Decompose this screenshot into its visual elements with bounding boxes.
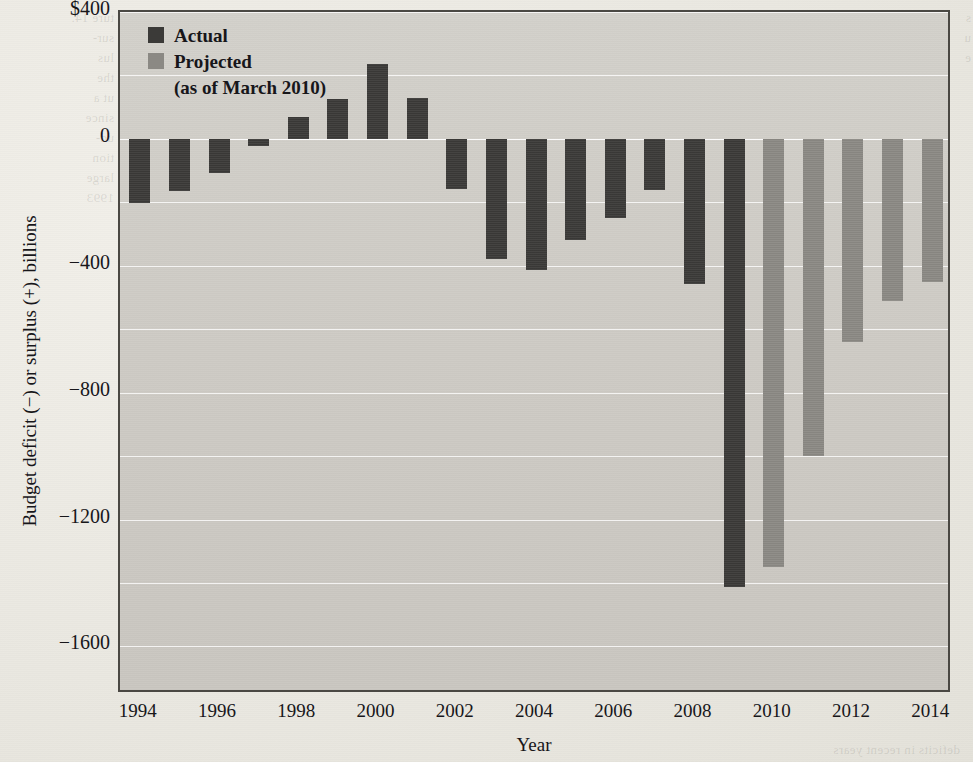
legend-label-projected: Projected xyxy=(174,50,252,73)
bar-2008 xyxy=(684,139,705,285)
bar-2003 xyxy=(486,139,507,259)
legend-swatch-actual-icon xyxy=(148,27,164,43)
y-axis-tick-labels: $4000−400−800−1200−1600 xyxy=(0,0,118,762)
bar-2012 xyxy=(842,139,863,342)
legend-swatch-projected-icon xyxy=(148,53,164,69)
x-tick-label: 1996 xyxy=(198,700,236,722)
x-tick-label: 2012 xyxy=(832,700,870,722)
bar-2005 xyxy=(565,139,586,240)
x-tick-label: 2008 xyxy=(673,700,711,722)
bar-2001 xyxy=(407,98,428,139)
bar-1995 xyxy=(169,139,190,191)
bleedthrough-text-right: s u e xyxy=(951,8,971,68)
x-tick-label: 2014 xyxy=(911,700,949,722)
x-tick-label: 1998 xyxy=(277,700,315,722)
bar-2006 xyxy=(605,139,626,218)
legend-label-actual: Actual xyxy=(174,24,228,47)
bar-2004 xyxy=(526,139,547,270)
bar-series-container xyxy=(120,12,948,690)
x-axis-tick-labels: 1994199619982000200220042006200820102012… xyxy=(118,700,950,730)
legend-label-projected-note: (as of March 2010) xyxy=(174,76,326,99)
bar-1997 xyxy=(248,139,269,146)
x-tick-label: 1994 xyxy=(119,700,157,722)
bar-2009 xyxy=(724,139,745,587)
legend-item-actual: Actual xyxy=(148,24,326,47)
x-tick-label: 2000 xyxy=(357,700,395,722)
bar-2002 xyxy=(446,139,467,189)
bar-2013 xyxy=(882,139,903,301)
bar-2014 xyxy=(922,139,943,282)
x-axis-title: Year xyxy=(118,734,950,756)
bar-2011 xyxy=(803,139,824,456)
bar-1996 xyxy=(209,139,230,173)
y-axis-title: Budget deficit (−) or surplus (+), billi… xyxy=(19,131,41,611)
bar-2000 xyxy=(367,64,388,139)
x-tick-label: 2010 xyxy=(753,700,791,722)
plot-area: Actual Projected (as of March 2010) xyxy=(118,10,950,692)
scanned-page: ture 14. sur- lus the ut a since ud- tio… xyxy=(0,0,973,762)
legend-item-projected: Projected xyxy=(148,50,326,73)
y-tick-label: −1600 xyxy=(6,631,118,654)
bar-1994 xyxy=(129,139,150,203)
bar-1998 xyxy=(288,117,309,139)
bar-2010 xyxy=(763,139,784,567)
bar-2007 xyxy=(644,139,665,190)
bar-1999 xyxy=(327,99,348,139)
chart-legend: Actual Projected (as of March 2010) xyxy=(148,24,326,99)
x-tick-label: 2004 xyxy=(515,700,553,722)
x-tick-label: 2002 xyxy=(436,700,474,722)
x-tick-label: 2006 xyxy=(594,700,632,722)
y-tick-label: $400 xyxy=(6,0,118,20)
